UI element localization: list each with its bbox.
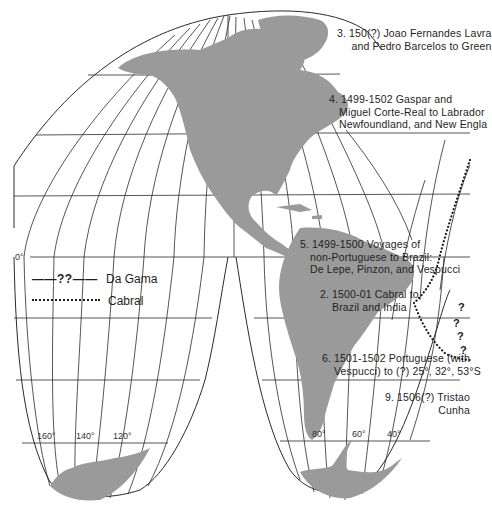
uncertain-mark: ? [457,330,464,342]
legend-da-gama: ——??—— Da Gama [32,272,157,286]
da-gama-label: Da Gama [106,272,157,286]
annotation-4: 4. 1499-1502 Gaspar and Miguel Corte-Rea… [329,93,487,131]
annotation-9: 9. 1506(?) Tristao Cunha [385,391,470,416]
cabral-dotted-symbol [32,299,100,303]
longitude-label: 40° [387,429,401,439]
uncertain-mark: ? [460,344,467,356]
da-gama-line-symbol: ——??—— [32,272,106,286]
longitude-label: 140° [76,431,95,441]
cabral-label: Cabral [108,294,143,308]
equator-label: 0° [15,252,24,262]
annotation-6: 6. 1501-1502 Portuguese (with Vespucci) … [322,352,481,377]
annotation-5: 5. 1499-1500 Voyages of non-Portuguese t… [300,238,460,276]
north-america-land [118,29,348,262]
annotation-2: 2. 1500-01 Cabral to Brazil and India [320,288,419,313]
longitude-label: 60° [352,429,366,439]
longitude-label: 80° [312,429,326,439]
longitude-label: 120° [113,431,132,441]
legend-cabral: Cabral [32,294,143,308]
uncertain-mark: ? [458,301,465,313]
longitude-label: 160° [37,431,56,441]
annotation-3: 3. 150(?) Joao Fernandes Lavra and Pedro… [337,27,492,52]
uncertain-mark: ? [453,317,460,329]
